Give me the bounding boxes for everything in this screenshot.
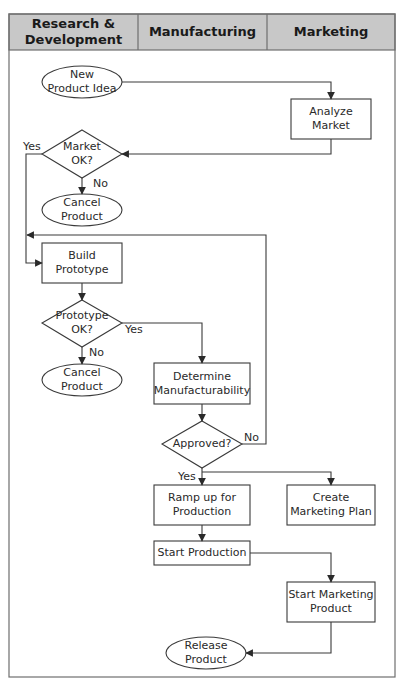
edge-label-approved-yes: Yes [178, 471, 196, 483]
edge-market-yes-to-build [26, 154, 42, 263]
label-determine-manufacturability: Determine Manufacturability [152, 363, 252, 404]
lane-header-marketing: Marketing [267, 14, 395, 50]
edge-approved-yes-to-marketing-plan [202, 472, 331, 485]
lane-header-rnd: Research & Development [9, 14, 138, 50]
label-new-product-idea: New Product Idea [42, 66, 122, 98]
edge-start-production-to-marketing [250, 553, 331, 582]
label-analyze-market: Analyze Market [291, 99, 371, 139]
label-market-ok: Market OK? [42, 138, 122, 170]
lane-header-manufacturing: Manufacturing [138, 14, 267, 50]
edge-label-market-yes: Yes [23, 141, 41, 153]
edge-marketing-to-release [246, 622, 331, 653]
label-cancel-product-2: Cancel Product [42, 364, 122, 396]
edge-idea-to-analyze [122, 82, 331, 99]
label-start-marketing-product: Start Marketing Product [285, 582, 377, 622]
edge-label-prototype-yes: Yes [125, 324, 143, 336]
edge-label-prototype-no: No [89, 347, 104, 359]
edge-label-market-no: No [93, 178, 108, 190]
label-release-product: Release Product [166, 637, 246, 669]
edge-label-approved-no: No [244, 432, 259, 444]
label-build-prototype: Build Prototype [42, 243, 122, 283]
label-ramp-up: Ramp up for Production [154, 485, 250, 525]
label-create-marketing-plan: Create Marketing Plan [285, 485, 377, 525]
label-approved: Approved? [162, 436, 242, 452]
edge-analyze-to-market-ok [122, 139, 331, 154]
label-prototype-ok: Prototype OK? [42, 307, 122, 339]
label-cancel-product-1: Cancel Product [42, 194, 122, 226]
label-start-production: Start Production [154, 541, 250, 565]
